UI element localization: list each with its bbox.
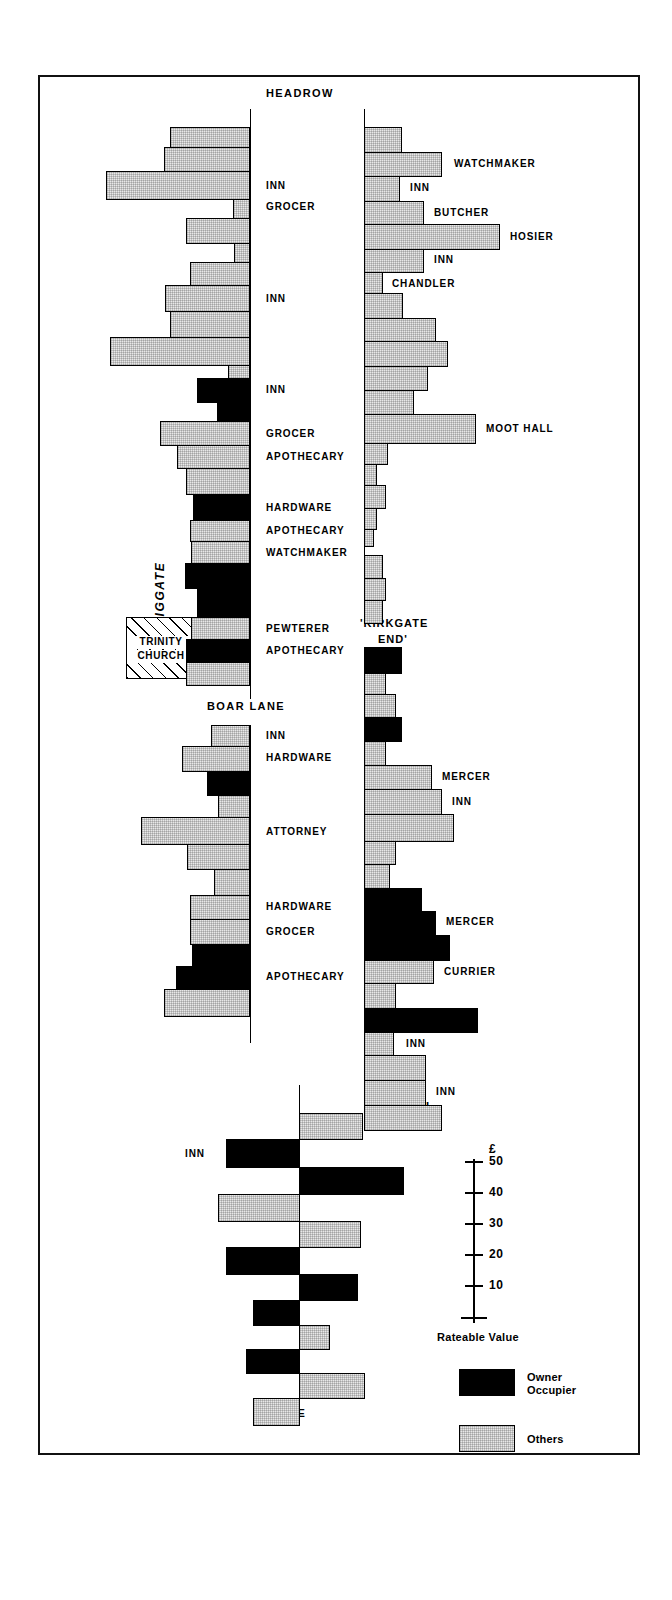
bar-property [226, 1139, 300, 1168]
bar-label-inn: INN [185, 1149, 205, 1159]
bar-label-watchmaker: WATCHMAKER [454, 159, 536, 169]
bar-property [299, 1274, 358, 1301]
bar-label-mercer: MERCER [446, 917, 495, 927]
scale-tick-zero [461, 1317, 487, 1319]
bar-property [226, 1247, 300, 1275]
bar-property [364, 1055, 426, 1081]
bar-property [364, 390, 414, 415]
bar-property [299, 1167, 404, 1195]
bar-property [218, 795, 250, 818]
bar-property [185, 563, 250, 589]
legend-swatch-others [459, 1425, 515, 1452]
bar-label-inn: INN [406, 1039, 426, 1049]
bar-label-mercer: MERCER [442, 772, 491, 782]
bar-property [299, 1373, 365, 1399]
bar-property [190, 919, 250, 945]
bar-label-apothecary: APOTHECARY [266, 452, 345, 462]
bar-property [218, 1194, 300, 1222]
label-kirkgate-end-line2: END' [378, 633, 408, 645]
bar-label-hardware: HARDWARE [266, 503, 332, 513]
bar-property [299, 1325, 330, 1350]
bar-property [106, 171, 250, 200]
scale-tick-label: 40 [489, 1185, 503, 1199]
bar-property [364, 366, 428, 391]
bar-property [364, 176, 400, 202]
bar-property [217, 402, 250, 422]
bar-property [190, 520, 250, 542]
bar-property [191, 617, 250, 640]
bar-property [364, 814, 454, 842]
bar-property [364, 765, 432, 790]
bar-label-chandler: CHANDLER [392, 279, 455, 289]
bar-property [197, 588, 250, 618]
bar-property [364, 464, 377, 486]
scale-tick-label: 20 [489, 1247, 503, 1261]
bar-property [364, 789, 442, 815]
bar-label-pewterer: PEWTERER [266, 624, 330, 634]
bar-property [246, 1349, 300, 1374]
bar-property [214, 869, 250, 896]
bar-label-inn: INN [452, 797, 472, 807]
bar-property [164, 147, 250, 172]
street-label-boar-lane: BOAR LANE [207, 700, 285, 712]
bar-property [364, 201, 424, 225]
bar-property [364, 1105, 442, 1131]
diagram-frame: HEADROW BOAR LANE BRIDGE BRIGGATE 'KIRKG… [38, 75, 640, 1455]
bar-property [164, 989, 250, 1017]
bar-property [299, 1221, 361, 1248]
bar-property [364, 414, 476, 444]
bar-label-attorney: ATTORNEY [266, 827, 327, 837]
bar-label-watchmaker: WATCHMAKER [266, 548, 348, 558]
bar-property [187, 844, 250, 870]
bar-property [186, 639, 250, 663]
bar-label-inn: INN [266, 181, 286, 191]
bar-property [364, 443, 388, 465]
axis-spine-left-upper [250, 109, 251, 699]
diagram-page: HEADROW BOAR LANE BRIDGE BRIGGATE 'KIRKG… [0, 0, 672, 1600]
bar-property [182, 746, 250, 772]
bar-property [193, 494, 250, 521]
bar-property [364, 960, 434, 984]
bar-property [364, 1080, 426, 1106]
church-label-line1: TRINITY [127, 636, 195, 649]
scale-tick [465, 1192, 483, 1194]
scale-tick-label: 50 [489, 1154, 503, 1168]
street-label-headrow: HEADROW [266, 87, 334, 99]
bar-property [186, 468, 250, 495]
legend-label-owner-occupier-line1: Owner [527, 1371, 562, 1385]
bar-property [141, 817, 250, 845]
bar-property [364, 508, 377, 530]
bar-property [364, 249, 424, 273]
bar-property [234, 243, 250, 263]
bar-label-inn: INN [266, 731, 286, 741]
scale-tick [465, 1285, 483, 1287]
bar-label-apothecary: APOTHECARY [266, 646, 345, 656]
bar-property [364, 741, 386, 766]
scale-tick [465, 1161, 483, 1163]
bar-property [165, 285, 250, 312]
bar-property [253, 1398, 300, 1426]
bar-property [364, 841, 396, 865]
bar-property [110, 337, 250, 366]
bar-label-grocer: GROCER [266, 429, 315, 439]
scale-tick-label: 30 [489, 1216, 503, 1230]
bar-label-apothecary: APOTHECARY [266, 972, 345, 982]
bar-property [364, 272, 383, 294]
bar-property [364, 647, 402, 674]
bar-label-grocer: GROCER [266, 927, 315, 937]
bar-label-apothecary: APOTHECARY [266, 526, 345, 536]
bar-property [364, 911, 436, 936]
bar-property [364, 1008, 478, 1033]
bar-property [170, 127, 250, 148]
bar-property [207, 771, 250, 796]
bar-property [364, 341, 448, 367]
bar-label-inn: INN [266, 385, 286, 395]
bar-property [364, 152, 442, 177]
scale-tick [465, 1223, 483, 1225]
bar-property [170, 311, 250, 338]
bar-property [233, 199, 250, 219]
bar-label-inn: INN [410, 183, 430, 193]
scale-tick-label: 10 [489, 1278, 503, 1292]
bar-property [364, 555, 383, 579]
bar-property [211, 725, 250, 747]
